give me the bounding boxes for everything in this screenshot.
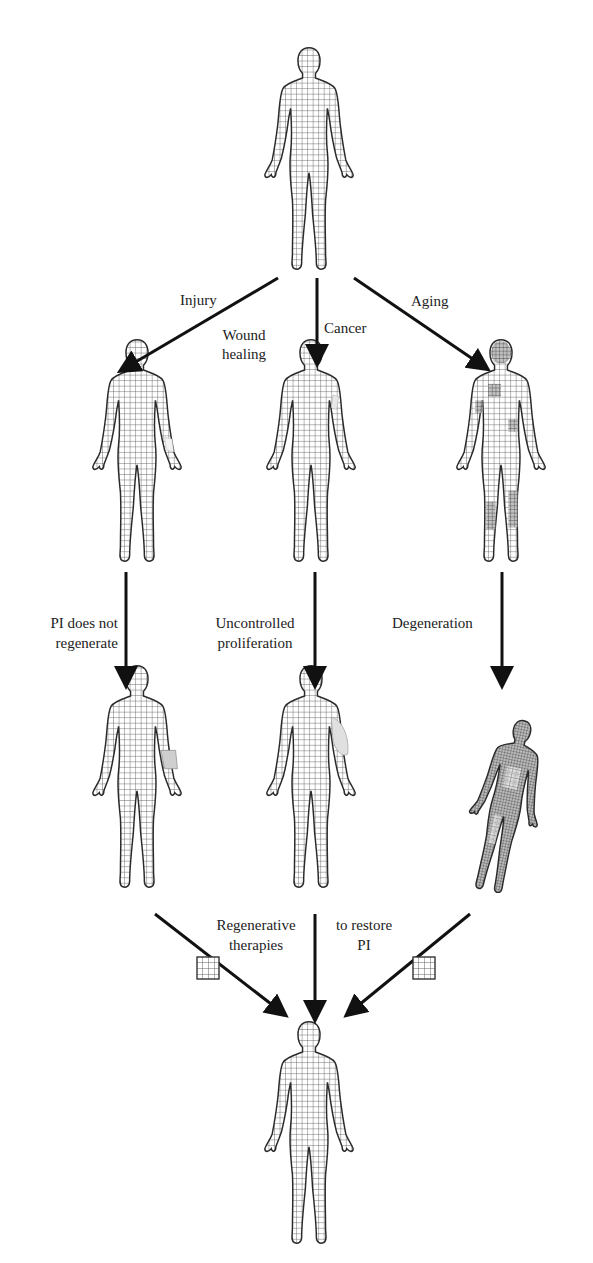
- label-restore-1: to restore: [324, 916, 404, 935]
- label-regenerative-2: therapies: [204, 936, 308, 955]
- label-injury: Injury: [180, 291, 217, 310]
- therapy-graft-left-icon: [196, 956, 220, 980]
- therapy-graft-right-icon: [412, 956, 436, 980]
- label-degeneration: Degeneration: [392, 614, 473, 633]
- label-uncontrolled-1: Uncontrolled: [200, 614, 310, 633]
- label-restore-2: PI: [324, 936, 404, 955]
- label-wound-healing-1: Wound: [214, 326, 274, 345]
- label-wound-healing-2: healing: [214, 345, 274, 364]
- label-regenerative-1: Regenerative: [204, 916, 308, 935]
- label-pi-not-regenerate-2: regenerate: [20, 634, 118, 653]
- label-pi-not-regenerate-1: PI does not: [20, 614, 118, 633]
- label-uncontrolled-2: proliferation: [200, 634, 310, 653]
- label-aging: Aging: [411, 292, 449, 311]
- label-cancer: Cancer: [324, 319, 366, 338]
